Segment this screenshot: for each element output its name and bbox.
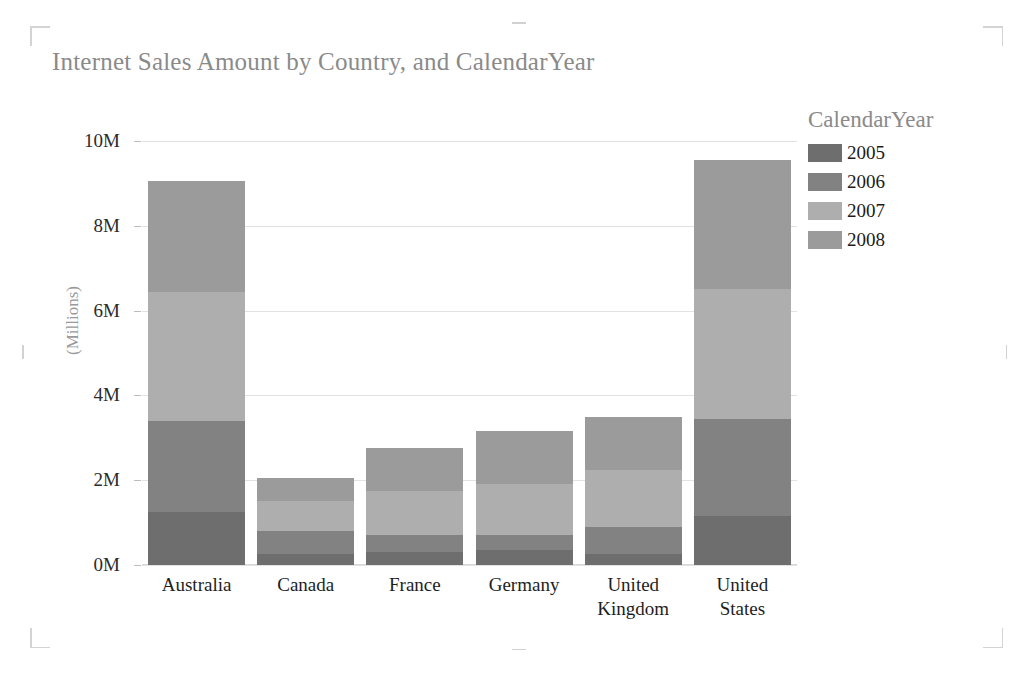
bar-stack[interactable]	[257, 478, 354, 565]
bar-segment[interactable]	[366, 552, 463, 565]
y-tick-mark	[134, 311, 141, 312]
y-tick-mark	[134, 395, 141, 396]
bar-segment[interactable]	[585, 470, 682, 527]
legend-item-label: 2006	[847, 171, 885, 193]
bar-segment[interactable]	[366, 491, 463, 536]
y-axis-tick-label: 4M	[32, 384, 120, 406]
bar-stack[interactable]	[585, 417, 682, 565]
bar-stack[interactable]	[476, 431, 573, 565]
y-axis-tick-label: 0M	[32, 554, 120, 576]
bar-segment[interactable]	[476, 550, 573, 565]
x-axis-category-label: Germany	[470, 573, 579, 597]
x-axis-category-label: UnitedStates	[688, 573, 797, 622]
chart-legend: CalendarYear 2005200620072008	[808, 107, 1013, 258]
bar-segment[interactable]	[257, 478, 354, 501]
y-axis-tick-label: 6M	[32, 300, 120, 322]
bar-segment[interactable]	[694, 160, 791, 289]
x-axis-category-label: France	[360, 573, 469, 597]
bar-segment[interactable]	[476, 431, 573, 484]
crop-mark-bottom-left	[30, 622, 56, 648]
crop-mark-top-right	[977, 26, 1003, 52]
x-axis-category-label: UnitedKingdom	[579, 573, 688, 622]
legend-item[interactable]: 2007	[808, 200, 1013, 222]
bar-segment[interactable]	[148, 292, 245, 421]
chart-title: Internet Sales Amount by Country, and Ca…	[52, 48, 595, 76]
bar-segment[interactable]	[476, 535, 573, 550]
legend-swatch-icon	[808, 202, 842, 220]
bar-segment[interactable]	[257, 554, 354, 565]
edge-tick-right	[1006, 345, 1008, 359]
legend-item[interactable]: 2008	[808, 229, 1013, 251]
y-tick-mark	[134, 141, 141, 142]
bar-segment[interactable]	[148, 421, 245, 512]
bar-stack[interactable]	[366, 448, 463, 565]
bar-segment[interactable]	[585, 554, 682, 565]
x-axis-category-label: Australia	[142, 573, 251, 597]
legend-item[interactable]: 2006	[808, 171, 1013, 193]
bar-segment[interactable]	[366, 535, 463, 552]
bar-segment[interactable]	[366, 448, 463, 490]
plot-area: 0M2M4M6M8M10MAustraliaCanadaFranceGerman…	[142, 141, 797, 565]
edge-tick-bottom	[512, 649, 526, 651]
y-tick-mark	[134, 480, 141, 481]
legend-item-label: 2005	[847, 142, 885, 164]
gridline	[142, 565, 797, 566]
bar-segment[interactable]	[694, 516, 791, 565]
bar-segment[interactable]	[148, 512, 245, 565]
legend-title: CalendarYear	[808, 107, 1013, 133]
x-axis-category-label: Canada	[251, 573, 360, 597]
bar-segment[interactable]	[694, 289, 791, 418]
bar-segment[interactable]	[694, 419, 791, 517]
gridline	[142, 141, 797, 142]
bar-segment[interactable]	[148, 181, 245, 291]
bar-segment[interactable]	[257, 531, 354, 554]
y-tick-mark	[134, 565, 141, 566]
legend-swatch-icon	[808, 173, 842, 191]
legend-item[interactable]: 2005	[808, 142, 1013, 164]
bar-segment[interactable]	[585, 527, 682, 555]
legend-item-label: 2007	[847, 200, 885, 222]
bar-stack[interactable]	[694, 160, 791, 565]
legend-item-label: 2008	[847, 229, 885, 251]
legend-swatch-icon	[808, 231, 842, 249]
legend-item-list: 2005200620072008	[808, 142, 1013, 251]
legend-swatch-icon	[808, 144, 842, 162]
bar-segment[interactable]	[257, 501, 354, 531]
bar-stack[interactable]	[148, 181, 245, 565]
crop-mark-bottom-right	[977, 622, 1003, 648]
y-axis-tick-label: 10M	[32, 130, 120, 152]
edge-tick-left	[22, 345, 24, 359]
y-axis-tick-label: 2M	[32, 469, 120, 491]
bar-segment[interactable]	[476, 484, 573, 535]
bar-segment[interactable]	[585, 417, 682, 470]
y-axis-tick-label: 8M	[32, 215, 120, 237]
edge-tick-top	[512, 22, 526, 24]
y-tick-mark	[134, 226, 141, 227]
